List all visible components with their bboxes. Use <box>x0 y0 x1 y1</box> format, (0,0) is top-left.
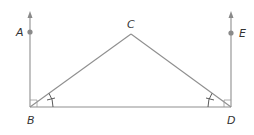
arrowhead-e-icon <box>229 11 234 18</box>
angle-arc-b-icon <box>49 93 53 107</box>
geometry-diagram: A B C D E <box>0 0 254 135</box>
arrowhead-a-icon <box>28 11 33 18</box>
label-d: D <box>227 114 235 127</box>
angle-tick-b-icon <box>47 98 55 100</box>
label-a: A <box>15 26 24 39</box>
point-e-icon <box>228 30 233 35</box>
label-e: E <box>239 27 246 40</box>
angle-arc-d-icon <box>208 93 212 107</box>
label-c: C <box>127 18 135 31</box>
label-b: B <box>27 114 35 127</box>
segment-bc <box>30 34 131 107</box>
segment-cd <box>131 34 231 107</box>
point-a-icon <box>27 29 32 34</box>
angle-tick-d-icon <box>206 98 214 100</box>
